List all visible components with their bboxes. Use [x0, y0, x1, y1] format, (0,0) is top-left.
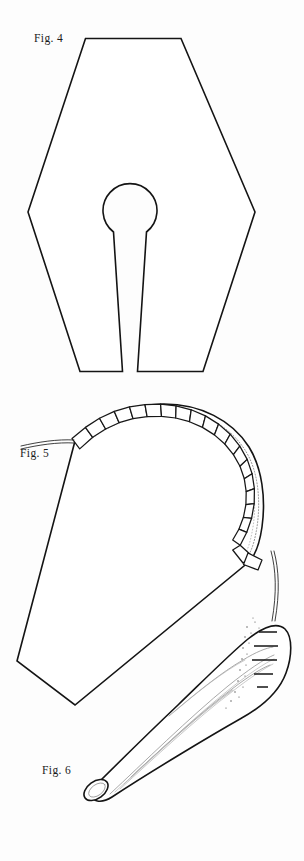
fig4-hexagon-outline — [28, 39, 255, 372]
figure-5-caption: Fig. 5 — [20, 447, 49, 459]
figure-4-drawing — [28, 39, 255, 372]
figure-6-caption: Fig. 6 — [42, 764, 71, 776]
fig5-thread-right — [271, 551, 278, 621]
technical-drawing-canvas — [0, 0, 304, 861]
patent-figure-sheet: Fig. 4 Fig. 5 Fig. 6 — [0, 0, 304, 861]
figure-4-caption: Fig. 4 — [34, 32, 63, 44]
